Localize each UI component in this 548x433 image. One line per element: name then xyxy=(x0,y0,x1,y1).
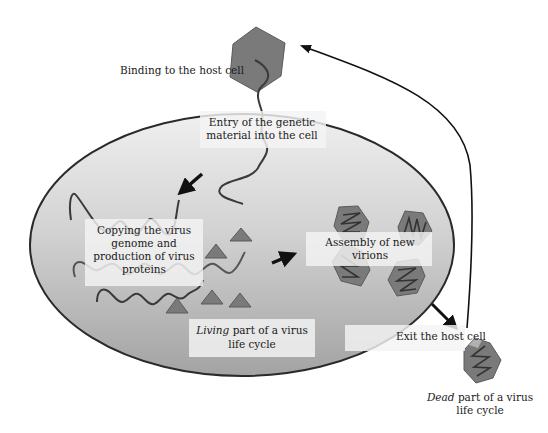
svg-text:material into the cell: material into the cell xyxy=(206,129,318,141)
capsid-icon xyxy=(230,27,285,92)
svg-text:life cycle: life cycle xyxy=(228,338,275,350)
label-dead: Dead part of a virus life cycle xyxy=(426,391,533,416)
label-assembly: Assembly of new virions xyxy=(306,232,432,266)
svg-text:Assembly of new: Assembly of new xyxy=(324,236,414,248)
svg-text:Dead part of a virus: Dead part of a virus xyxy=(426,391,533,403)
exited-virion xyxy=(464,338,501,383)
svg-text:genome and: genome and xyxy=(111,237,177,249)
svg-text:life cycle: life cycle xyxy=(456,404,503,416)
svg-text:Copying the virus: Copying the virus xyxy=(97,224,191,236)
arrow-assembly-to-exit xyxy=(432,304,456,328)
label-living: Living part of a virus life cycle xyxy=(189,319,315,357)
svg-text:Exit the host cell: Exit the host cell xyxy=(396,330,487,342)
label-entry: Entry of the genetic material into the c… xyxy=(200,111,326,148)
label-exit: Exit the host cell xyxy=(345,325,487,351)
virus-life-cycle-diagram: Binding to the host cell Entry of the ge… xyxy=(0,0,548,433)
svg-text:production of virus: production of virus xyxy=(93,250,194,262)
svg-text:proteins: proteins xyxy=(122,263,166,275)
svg-text:virions: virions xyxy=(351,249,388,261)
label-copying: Copying the virus genome and production … xyxy=(85,219,203,286)
svg-text:Living part of a virus: Living part of a virus xyxy=(195,324,308,336)
svg-text:Entry of the genetic: Entry of the genetic xyxy=(209,116,316,128)
label-binding: Binding to the host cell xyxy=(120,64,245,76)
